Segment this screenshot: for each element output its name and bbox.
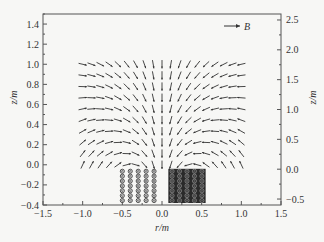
conductor-dot (136, 189, 140, 193)
y-left-axis-title: z/m (8, 91, 19, 106)
conductor-dot (144, 189, 148, 193)
conductor-dot (120, 198, 124, 202)
conductor-cross (192, 184, 196, 188)
x-tick-label: −1.0 (74, 208, 92, 219)
y-right-tick-label: 0.5 (286, 134, 299, 145)
x-axis-title: r/m (155, 222, 169, 233)
conductor-dot (144, 169, 148, 173)
y-left-tick-label: 1.4 (27, 19, 40, 30)
x-tick-label: 0.5 (195, 208, 208, 219)
conductor-dot (120, 194, 124, 198)
y-left-tick-label: −0.4 (21, 200, 39, 211)
conductor-cross (177, 179, 181, 183)
y-left-tick-label: 1.2 (27, 39, 40, 50)
conductor-cross (170, 179, 174, 183)
conductor-cross (200, 174, 204, 178)
conductor-dot (152, 174, 156, 178)
conductor-cross (185, 174, 189, 178)
conductor-cross (185, 198, 189, 202)
conductor-cross (192, 179, 196, 183)
conductor-dot (144, 184, 148, 188)
conductor-cross (177, 198, 181, 202)
y-left-tick-label: 0.0 (27, 159, 40, 170)
conductor-cross (170, 189, 174, 193)
y-right-tick-label: 2.0 (286, 44, 299, 55)
conductor-dot (120, 184, 124, 188)
legend-label: B (244, 21, 250, 32)
conductor-cross (170, 184, 174, 188)
y-right-tick-label: 2.5 (286, 14, 299, 25)
y-right-tick-label: 0.0 (286, 164, 299, 175)
right-coil (168, 169, 205, 203)
conductor-dot (152, 184, 156, 188)
conductor-cross (177, 189, 181, 193)
conductor-cross (192, 174, 196, 178)
conductor-dot (128, 174, 132, 178)
conductor-cross (192, 198, 196, 202)
conductor-dot (120, 169, 124, 173)
conductor-cross (185, 169, 189, 173)
conductor-cross (170, 194, 174, 198)
conductor-cross (170, 169, 174, 173)
conductor-dot (144, 179, 148, 183)
conductor-cross (185, 189, 189, 193)
field-plot: −1.5−1.0−0.50.00.51.01.5−0.4−0.20.00.20.… (0, 0, 324, 242)
conductor-dot (144, 194, 148, 198)
conductor-dot (152, 194, 156, 198)
y-right-axis-title: z/m (307, 91, 318, 106)
y-right-tick-label: 1.5 (286, 74, 299, 85)
conductor-cross (177, 184, 181, 188)
conductor-cross (200, 184, 204, 188)
conductor-cross (185, 179, 189, 183)
y-left-tick-label: 0.2 (27, 139, 40, 150)
y-left-tick-label: 1.0 (27, 59, 40, 70)
conductor-dot (120, 174, 124, 178)
conductor-cross (185, 184, 189, 188)
x-tick-label: −0.5 (113, 208, 131, 219)
y-left-tick-label: −0.2 (21, 179, 39, 190)
y-left-tick-label: 0.4 (27, 119, 40, 130)
conductor-cross (200, 198, 204, 202)
conductor-dot (152, 169, 156, 173)
conductor-dot (144, 174, 148, 178)
conductor-dot (136, 198, 140, 202)
conductor-dot (120, 189, 124, 193)
conductor-dot (152, 198, 156, 202)
x-tick-label: 1.0 (235, 208, 248, 219)
field-vectors (78, 60, 245, 169)
conductor-cross (185, 194, 189, 198)
conductor-cross (192, 194, 196, 198)
conductor-cross (192, 189, 196, 193)
conductor-dot (128, 189, 132, 193)
y-right-tick-label: −0.5 (286, 194, 304, 205)
conductor-dot (136, 184, 140, 188)
conductor-dot (128, 169, 132, 173)
conductor-cross (200, 179, 204, 183)
conductor-dot (120, 179, 124, 183)
conductor-dot (136, 169, 140, 173)
conductor-cross (177, 169, 181, 173)
x-tick-label: 1.5 (275, 208, 288, 219)
conductor-cross (200, 189, 204, 193)
conductor-cross (170, 174, 174, 178)
y-right-tick-label: 1.0 (286, 104, 299, 115)
y-left-tick-label: 0.8 (27, 79, 40, 90)
conductor-dot (128, 184, 132, 188)
conductor-dot (136, 179, 140, 183)
conductor-dot (152, 189, 156, 193)
conductor-cross (170, 198, 174, 202)
conductor-cross (177, 194, 181, 198)
y-left-tick-label: 0.6 (27, 99, 40, 110)
conductor-dot (136, 174, 140, 178)
conductor-dot (128, 198, 132, 202)
x-tick-label: 0.0 (156, 208, 169, 219)
left-coil (120, 169, 156, 202)
conductor-cross (192, 169, 196, 173)
conductor-dot (136, 194, 140, 198)
legend: B (224, 21, 250, 32)
conductor-dot (128, 179, 132, 183)
conductor-dot (128, 194, 132, 198)
conductor-cross (200, 194, 204, 198)
conductor-cross (200, 169, 204, 173)
conductor-dot (144, 198, 148, 202)
